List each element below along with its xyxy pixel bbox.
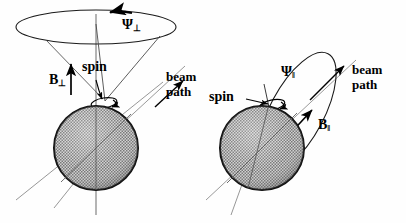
right-spin-label: spin bbox=[209, 90, 234, 104]
right-spin-precession-arrow bbox=[280, 102, 284, 109]
left-psi-label: Ψ⊥ bbox=[122, 18, 141, 33]
left-beam-path-label: beam path bbox=[166, 70, 196, 99]
left-b-field-label: B⊥ bbox=[49, 73, 66, 88]
right-beam-path-line1: beam bbox=[352, 63, 382, 78]
left-b-subscript: ⊥ bbox=[58, 78, 66, 88]
diagram-vector-layer bbox=[0, 0, 406, 223]
right-b-field-label: B‖ bbox=[318, 118, 330, 133]
figure-canvas: Ψ⊥ B⊥ spin beam path Ψ‖ B‖ spin beam pat… bbox=[0, 0, 406, 223]
left-panel-graphics bbox=[16, 10, 185, 215]
right-spin-leader bbox=[246, 99, 268, 104]
left-precession-direction-arrow bbox=[110, 11, 132, 13]
right-psi-symbol: Ψ bbox=[281, 64, 292, 79]
right-psi-label: Ψ‖ bbox=[281, 65, 295, 80]
right-b-subscript: ‖ bbox=[327, 123, 330, 133]
left-psi-subscript: ⊥ bbox=[133, 23, 141, 33]
left-b-symbol: B bbox=[49, 72, 58, 87]
left-psi-symbol: Ψ bbox=[122, 17, 133, 32]
right-beam-direction-arrow bbox=[310, 66, 344, 100]
left-beam-path-line2: path bbox=[166, 85, 196, 100]
left-beam-path-line1: beam bbox=[166, 70, 196, 85]
right-beam-path-line2: path bbox=[352, 78, 382, 93]
left-spin-leader bbox=[96, 80, 102, 99]
right-b-symbol: B bbox=[318, 117, 327, 132]
right-beam-path-label: beam path bbox=[352, 63, 382, 92]
right-psi-subscript: ‖ bbox=[292, 70, 295, 80]
left-spin-label: spin bbox=[82, 60, 107, 74]
